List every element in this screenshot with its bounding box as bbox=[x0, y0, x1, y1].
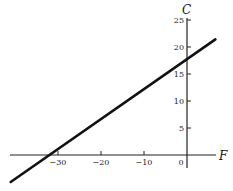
x-axis-label: F bbox=[218, 149, 228, 163]
x-tick-label: −20 bbox=[93, 158, 110, 167]
x-tick-label: −30 bbox=[50, 158, 67, 167]
x-tick-label: −10 bbox=[136, 158, 153, 167]
y-tick-label: 20 bbox=[174, 43, 184, 52]
chart: FC−30−20−100510152025 bbox=[0, 0, 233, 191]
x-tick-label: 0 bbox=[178, 158, 183, 167]
y-tick-label: 15 bbox=[174, 70, 184, 79]
y-tick-label: 10 bbox=[174, 97, 184, 106]
y-tick-label: 25 bbox=[174, 16, 184, 25]
y-axis-label: C bbox=[182, 3, 191, 17]
y-tick-label: 5 bbox=[179, 124, 184, 133]
series-line bbox=[11, 39, 216, 182]
